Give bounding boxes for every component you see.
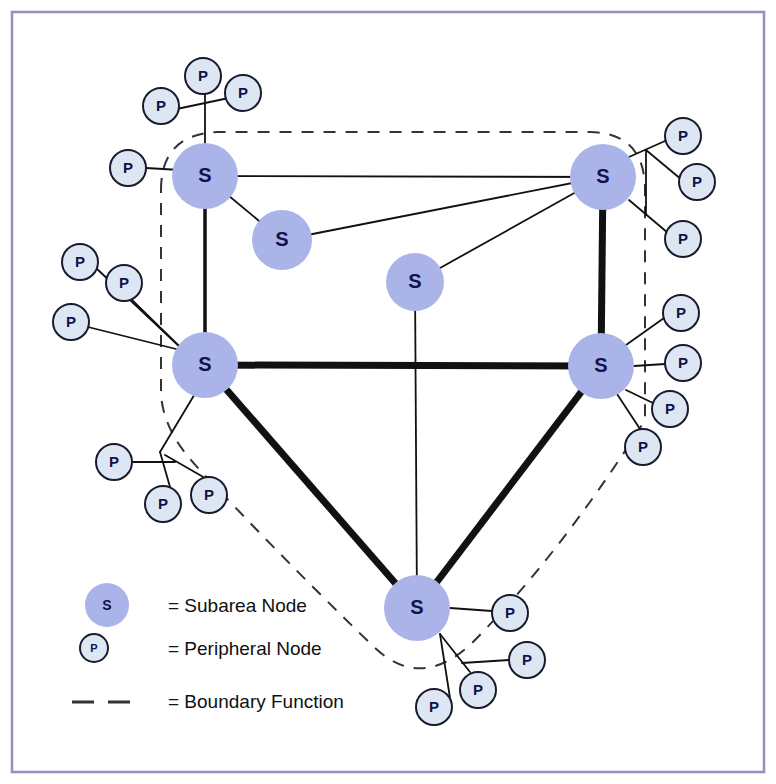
peripheral-node-label: P: [75, 253, 85, 270]
peripheral-node-label: P: [429, 698, 439, 715]
s-mid-left[interactable]: S: [172, 332, 238, 398]
peripheral-node-label: P: [204, 486, 214, 503]
peripheral-node-label: P: [692, 173, 702, 190]
bb-midright-bottom: [417, 366, 601, 608]
p-tr-3[interactable]: P: [665, 221, 701, 257]
subarea-node-label: S: [275, 228, 288, 250]
p-mr-1[interactable]: P: [663, 295, 699, 331]
s-inner-upper[interactable]: S: [252, 210, 312, 270]
peripheral-node-label: P: [66, 313, 76, 330]
diagram-canvas: SSSSSSS PPPPPPPPPPPPPPPPPPPPP S= Subarea…: [0, 0, 776, 784]
peripheral-node-label: P: [109, 453, 119, 470]
peripheral-node-label: P: [238, 84, 248, 101]
s-bottom[interactable]: S: [384, 575, 450, 641]
p-b-4[interactable]: P: [416, 689, 452, 725]
s-inner-center[interactable]: S: [386, 253, 444, 311]
pl-mr-d: [617, 394, 640, 429]
subarea-node-label: S: [408, 270, 421, 292]
peripheral-node-label: P: [638, 438, 648, 455]
legend-item-label: = Boundary Function: [168, 691, 344, 712]
tn-innercenter-bottom: [415, 282, 417, 608]
legend-subarea: S= Subarea Node: [85, 583, 307, 627]
peripheral-node-label: P: [158, 495, 168, 512]
peripheral-node-label: P: [198, 67, 208, 84]
p-b-3[interactable]: P: [460, 672, 496, 708]
p-ml-2[interactable]: P: [106, 265, 142, 301]
p-mr-4[interactable]: P: [625, 429, 661, 465]
subarea-node-label: S: [410, 596, 423, 618]
p-tr-1[interactable]: P: [665, 118, 701, 154]
p-tl-2[interactable]: P: [143, 88, 179, 124]
peripheral-node-label: P: [123, 159, 133, 176]
tn-innerupper-topright: [282, 177, 603, 240]
peripheral-node-label: P: [119, 274, 129, 291]
subarea-node-label: S: [198, 353, 211, 375]
pl-b-a: [450, 608, 492, 611]
p-tl-3[interactable]: P: [225, 75, 261, 111]
legend: S= Subarea NodeP= Peripheral Node= Bound…: [72, 583, 344, 712]
pl-mr-b: [634, 364, 665, 366]
p-mr-2[interactable]: P: [665, 345, 701, 381]
peripheral-node-label: P: [678, 127, 688, 144]
s-mid-right[interactable]: S: [568, 333, 634, 399]
pl-bl-3: [165, 455, 205, 478]
p-ml-1[interactable]: P: [62, 244, 98, 280]
subarea-node-label: S: [594, 354, 607, 376]
subarea-node-label: S: [198, 164, 211, 186]
pl-tr-c: [629, 200, 668, 233]
p-bl-3[interactable]: P: [191, 477, 227, 513]
p-tr-2[interactable]: P: [679, 164, 715, 200]
peripheral-node-label: P: [678, 230, 688, 247]
peripheral-node-label: P: [678, 354, 688, 371]
p-bl-1[interactable]: P: [96, 444, 132, 480]
bb-midleft-bottom: [205, 365, 417, 608]
diagram-frame: [12, 12, 764, 772]
p-b-2[interactable]: P: [509, 642, 545, 678]
legend-item-label: = Peripheral Node: [168, 638, 322, 659]
legend-peripheral-symbol-label: P: [90, 642, 97, 654]
s-top-right[interactable]: S: [570, 144, 636, 210]
peripheral-node-label: P: [505, 604, 515, 621]
p-tl-4[interactable]: P: [110, 150, 146, 186]
p-bl-2[interactable]: P: [145, 486, 181, 522]
pl-ml-fan-c: [88, 327, 180, 350]
p-ml-3[interactable]: P: [53, 304, 89, 340]
pl-tr-a: [646, 150, 682, 180]
legend-subarea-symbol-label: S: [102, 597, 111, 613]
pl-b-d: [462, 660, 509, 663]
p-mr-3[interactable]: P: [652, 391, 688, 427]
legend-boundary: = Boundary Function: [72, 691, 344, 712]
legend-peripheral: P= Peripheral Node: [80, 634, 322, 662]
peripheral-node-label: P: [665, 400, 675, 417]
peripheral-node-label: P: [676, 304, 686, 321]
legend-item-label: = Subarea Node: [168, 595, 307, 616]
subarea-node-label: S: [596, 165, 609, 187]
p-b-1[interactable]: P: [492, 595, 528, 631]
s-top-left[interactable]: S: [172, 143, 238, 209]
network-topology-diagram: SSSSSSS PPPPPPPPPPPPPPPPPPPPP S= Subarea…: [0, 0, 776, 784]
tn-topleft-topright: [205, 176, 603, 177]
pl-mr-c: [626, 390, 655, 404]
peripheral-node-label: P: [156, 97, 166, 114]
subarea-nodes-layer: SSSSSSS: [172, 143, 636, 641]
peripheral-node-label: P: [522, 651, 532, 668]
peripheral-node-label: P: [473, 681, 483, 698]
p-tl-1[interactable]: P: [185, 58, 221, 94]
pl-tr-stem: [629, 141, 665, 157]
bb-midleft-midright: [205, 365, 601, 366]
